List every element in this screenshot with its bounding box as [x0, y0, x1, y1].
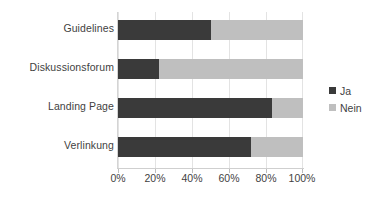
- bar-segment-verlinkung-nein: [251, 137, 303, 157]
- legend-item-ja: Ja: [329, 82, 385, 99]
- bar-segment-guidelines-ja: [118, 20, 211, 40]
- bar-row-verlinkung: [118, 137, 303, 157]
- bar-segment-verlinkung-ja: [118, 137, 251, 157]
- legend-label-ja: Ja: [340, 85, 351, 97]
- bar-segment-landing-page-ja: [118, 98, 272, 118]
- category-label-diskussionsforum: Diskussionsforum: [8, 61, 114, 73]
- bar-segment-diskussionsforum-ja: [118, 59, 159, 79]
- legend-swatch-icon-nein: [329, 104, 336, 111]
- category-label-guidelines: Guidelines: [8, 22, 114, 34]
- legend-item-nein: Nein: [329, 99, 385, 116]
- legend-label-nein: Nein: [340, 102, 362, 114]
- bar-segment-landing-page-nein: [272, 98, 303, 118]
- plot-area: [118, 12, 303, 168]
- category-label-landing-page: Landing Page: [8, 100, 114, 112]
- bar-segment-diskussionsforum-nein: [159, 59, 303, 79]
- category-label-verlinkung: Verlinkung: [8, 139, 114, 151]
- category-axis-line: [117, 168, 304, 169]
- legend-swatch-icon-ja: [329, 87, 336, 94]
- chart-legend: Ja Nein: [329, 82, 385, 116]
- value-axis-labels: 0% 20% 40% 60% 80% 100%: [118, 172, 303, 188]
- stacked-bar-chart: Guidelines Diskussionsforum Landing Page…: [0, 0, 388, 201]
- bar-row-guidelines: [118, 20, 303, 40]
- bar-row-diskussionsforum: [118, 59, 303, 79]
- x-tick-label-100: 100%: [279, 172, 325, 185]
- bar-row-landing-page: [118, 98, 303, 118]
- bar-segment-guidelines-nein: [211, 20, 304, 40]
- category-axis: Guidelines Diskussionsforum Landing Page…: [8, 12, 114, 168]
